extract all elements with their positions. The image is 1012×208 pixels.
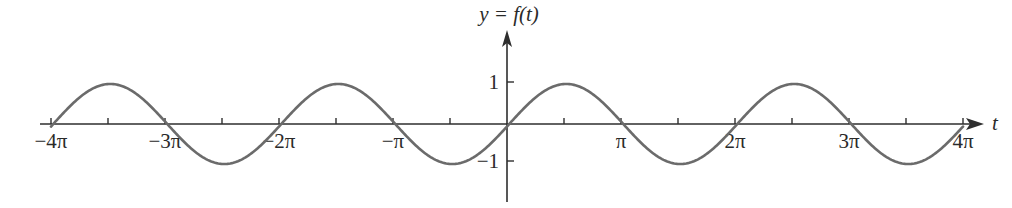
x-tick-label: 3π [838, 129, 860, 153]
y-axis-label: y = f(t) [477, 2, 539, 26]
x-tick-label: π [616, 129, 627, 153]
y-tick-label: 1 [489, 70, 500, 94]
y-ticks: 1−1 [477, 70, 514, 173]
x-tick-label: −π [382, 129, 405, 153]
x-tick-label: −4π [35, 129, 68, 153]
x-axis-label: t [992, 111, 999, 135]
x-tick-label: −2π [263, 129, 296, 153]
sinusoid-chart: −4π−3π−2π−ππ2π3π4π 1−1 t y = f(t) [0, 0, 1012, 208]
